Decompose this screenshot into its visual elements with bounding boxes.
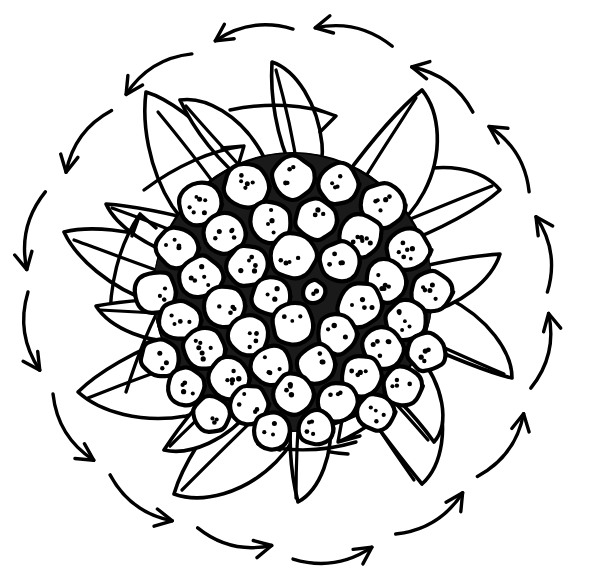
floret-dot — [178, 319, 183, 324]
floret-dot — [248, 345, 252, 349]
floret-dot — [254, 331, 259, 336]
floret-dot — [374, 409, 378, 413]
floret-dot — [338, 174, 342, 178]
floret-dot — [236, 376, 241, 381]
floret-dot — [315, 207, 320, 212]
floret-dot — [173, 238, 177, 242]
floret-dot — [231, 369, 235, 373]
floret-dot — [192, 210, 196, 214]
floret — [272, 155, 315, 200]
floret-dot — [364, 369, 368, 373]
floret-outline — [254, 412, 290, 449]
floret-dot — [369, 405, 373, 409]
floret-dot — [160, 366, 164, 370]
floret-dot — [230, 381, 234, 385]
floret-dot — [202, 275, 206, 279]
floret-dot — [195, 195, 199, 199]
floret-dot — [229, 229, 234, 234]
floret-dot — [201, 356, 206, 361]
floret-dot — [157, 351, 162, 356]
floret-dot — [387, 284, 391, 288]
floret-dot — [267, 370, 272, 375]
floret — [254, 412, 290, 449]
floret-dot — [296, 256, 300, 260]
floret — [407, 333, 445, 371]
floret-dot — [282, 314, 287, 319]
floret-dot — [419, 355, 424, 360]
floret-dot — [373, 199, 378, 204]
floret-dot — [289, 392, 294, 397]
floret-dot — [247, 259, 251, 263]
floret-dot — [269, 208, 273, 212]
floret — [299, 410, 334, 444]
floret-dot — [225, 378, 229, 382]
floret — [303, 280, 326, 303]
floret-dot — [288, 382, 293, 387]
floret-dot — [228, 310, 233, 315]
floret-dot — [217, 229, 222, 234]
floret-dot — [371, 342, 376, 347]
floret-dot — [298, 314, 302, 318]
floret-dot — [387, 194, 392, 199]
floret-dot — [401, 255, 406, 260]
floret-dot — [340, 260, 345, 265]
floret-dot — [400, 328, 404, 332]
floret-dot — [248, 331, 252, 335]
floret-dot — [176, 245, 181, 250]
floret-dot — [196, 345, 201, 350]
floret-dot — [287, 167, 292, 172]
floret-dot — [164, 360, 169, 365]
floret — [318, 163, 359, 204]
floret-dot — [395, 378, 399, 382]
floret-dot — [370, 305, 375, 310]
floret-dot — [242, 392, 246, 396]
floret-dot — [290, 319, 294, 323]
floret-dot — [173, 322, 177, 326]
floret-dot — [407, 382, 412, 387]
floret-dot — [328, 393, 333, 398]
floret-dot — [374, 419, 378, 423]
floret-outline — [272, 155, 315, 200]
floret-dot — [210, 416, 214, 420]
floret-dot — [332, 323, 337, 328]
floret-dot — [251, 180, 255, 184]
floret-dot — [194, 339, 198, 343]
floret-dot — [271, 432, 275, 436]
floret-dot — [326, 327, 330, 331]
floret-dot — [332, 251, 337, 256]
floret-dot — [333, 185, 337, 189]
floret-dot — [272, 297, 277, 302]
floret-dot — [427, 288, 432, 293]
floret-dot — [253, 263, 258, 268]
floret-dot — [283, 181, 288, 186]
floret-dot — [202, 210, 207, 215]
floret-dot — [395, 383, 399, 387]
floret-dot — [170, 313, 174, 317]
floret-dot — [365, 236, 369, 240]
floret-dot — [327, 262, 332, 267]
floret-dot — [187, 320, 191, 324]
floret-dot — [215, 417, 219, 421]
floret-dot — [383, 197, 388, 202]
floret-dot — [181, 389, 186, 394]
floret-dot — [434, 297, 438, 301]
floret-dot — [199, 264, 204, 269]
floret-dot — [313, 213, 318, 218]
floret-outline — [299, 410, 334, 444]
floret-dot — [255, 407, 260, 412]
floret-dot — [238, 268, 243, 273]
floret-dot — [430, 283, 435, 288]
floret-dot — [362, 305, 367, 310]
floret-outline — [318, 163, 359, 204]
sunflower-phyllotaxis-illustration — [0, 0, 591, 588]
floret-dot — [163, 286, 167, 290]
floret-dot — [284, 388, 289, 393]
floret-dot — [262, 430, 266, 434]
floret-dot — [232, 235, 237, 240]
figure-canvas — [0, 0, 591, 588]
floret — [271, 233, 319, 278]
floret-dot — [349, 369, 354, 374]
floret-dot — [275, 286, 280, 291]
floret-dot — [310, 419, 314, 423]
floret-dot — [305, 429, 310, 434]
